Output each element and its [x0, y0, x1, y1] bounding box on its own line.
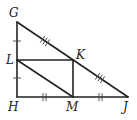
label-h: H	[7, 100, 19, 114]
segment-lm	[17, 60, 73, 97]
geometry-diagram: G L H K M J	[0, 0, 137, 120]
label-g: G	[9, 6, 19, 20]
label-j: J	[120, 100, 129, 114]
label-m: M	[65, 100, 79, 114]
label-l: L	[5, 53, 14, 67]
label-k: K	[75, 48, 86, 62]
